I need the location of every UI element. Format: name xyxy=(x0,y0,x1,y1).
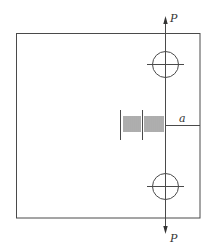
crack-length-label: a xyxy=(179,112,186,125)
force-label-bottom: P xyxy=(169,232,178,245)
crack-scale xyxy=(121,110,164,140)
force-arrow-down-icon xyxy=(163,226,167,234)
compact-tension-specimen-diagram: P P a xyxy=(0,0,214,248)
force-arrow-up-icon xyxy=(163,16,167,24)
force-label-top: P xyxy=(169,12,178,25)
